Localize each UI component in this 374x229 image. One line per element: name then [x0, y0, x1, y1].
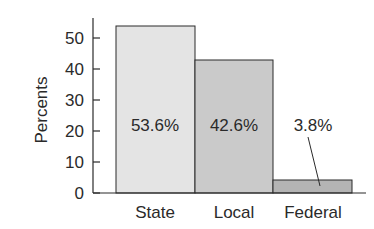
tick-label-20: 20 [65, 122, 84, 141]
tick-label-30: 30 [65, 91, 84, 110]
y-ticks [93, 38, 100, 193]
bar-chart: Percents 0 10 20 30 40 50 53.6% 42.6% 3.… [0, 0, 374, 229]
category-label-local: Local [214, 203, 255, 222]
category-label-state: State [135, 203, 175, 222]
y-axis-title: Percents [32, 76, 51, 143]
bar-state [116, 26, 195, 193]
category-label-federal: Federal [284, 203, 342, 222]
y-tick-labels: 0 10 20 30 40 50 [65, 29, 84, 203]
federal-leader-line [308, 137, 320, 186]
tick-label-10: 10 [65, 153, 84, 172]
tick-label-40: 40 [65, 60, 84, 79]
value-label-state: 53.6% [131, 116, 179, 135]
bar-federal [273, 180, 352, 193]
value-label-federal: 3.8% [294, 116, 333, 135]
tick-label-50: 50 [65, 29, 84, 48]
value-label-local: 42.6% [210, 116, 258, 135]
tick-label-0: 0 [75, 184, 84, 203]
